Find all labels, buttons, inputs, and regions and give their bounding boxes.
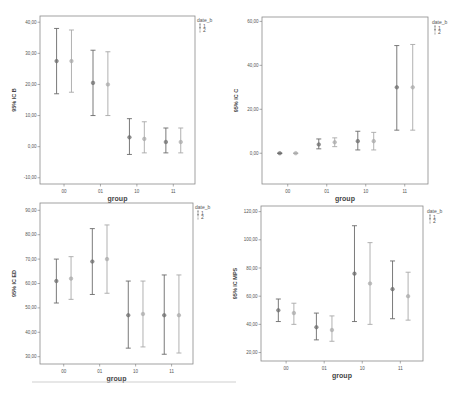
error-bar-series-2-00 xyxy=(69,257,74,300)
chart-panel-2: 0,0020,0040,0060,0000011011group95% IC C… xyxy=(233,17,448,203)
mean-point xyxy=(395,86,399,90)
error-bar-series-1-00 xyxy=(54,28,59,93)
error-bar-series-2-00 xyxy=(291,303,296,324)
mean-point xyxy=(278,151,282,155)
x-tick-label: 10 xyxy=(133,369,139,374)
error-bar-series-1-10 xyxy=(127,119,132,155)
chart-panel-4: 20,0040,0060,0080,00100,00120,0000011011… xyxy=(232,206,443,380)
y-axis-label: 95% IC MPS xyxy=(232,267,238,299)
y-tick-label: 0,00 xyxy=(250,151,259,156)
plot-frame xyxy=(40,16,195,184)
mean-point xyxy=(55,279,59,283)
error-bar-series-2-10 xyxy=(140,281,145,347)
error-bar-series-1-00 xyxy=(276,299,281,322)
error-bar-series-2-00 xyxy=(293,151,298,155)
mean-point xyxy=(333,140,337,144)
legend: date_b12 xyxy=(197,17,213,33)
y-tick-label: 20,00 xyxy=(25,82,37,87)
y-tick-label: 40,00 xyxy=(25,20,37,25)
error-bar-series-1-00 xyxy=(277,151,282,155)
x-axis-label: group xyxy=(335,195,355,203)
x-tick-label: 11 xyxy=(171,189,176,194)
mean-point xyxy=(162,313,166,317)
y-tick-label: 100,00 xyxy=(244,237,258,242)
chart-grid: -10,000,0010,0020,0030,0040,0000011011gr… xyxy=(0,0,461,396)
y-tick-label: 20,00 xyxy=(246,350,258,355)
mean-point xyxy=(105,257,109,261)
mean-point xyxy=(315,325,319,329)
x-tick-label: 01 xyxy=(98,189,104,194)
legend-entry-label: 2 xyxy=(438,29,441,35)
mean-point xyxy=(91,81,95,85)
mean-point xyxy=(294,151,298,155)
mean-point xyxy=(70,59,74,63)
error-bar-series-1-11 xyxy=(390,261,395,319)
chart-panel-1: -10,000,0010,0020,0030,0040,0000011011gr… xyxy=(11,16,213,203)
x-tick-label: 01 xyxy=(97,369,103,374)
error-bar-series-1-01 xyxy=(90,229,95,295)
mean-point xyxy=(406,294,410,298)
y-tick-label: 50,00 xyxy=(25,305,37,310)
x-tick-label: 00 xyxy=(61,369,67,374)
plot-frame xyxy=(262,17,428,184)
mean-point xyxy=(141,312,145,316)
mean-point xyxy=(69,277,73,281)
error-bar-series-2-10 xyxy=(368,243,373,325)
x-tick-label: 00 xyxy=(284,366,290,371)
error-bar-series-2-11 xyxy=(410,44,415,130)
error-bar-series-1-11 xyxy=(394,46,399,131)
y-tick-label: 40,00 xyxy=(247,63,259,68)
x-tick-label: 11 xyxy=(398,366,403,371)
y-tick-label: 30,00 xyxy=(25,354,37,359)
x-tick-label: 10 xyxy=(360,366,366,371)
error-bar-series-2-01 xyxy=(332,138,337,147)
y-tick-label: -10,00 xyxy=(24,175,37,180)
mean-point xyxy=(391,287,395,291)
chart-panel-3: 30,0040,0050,0060,0070,0080,0090,0000011… xyxy=(11,203,211,383)
y-tick-label: 10,00 xyxy=(25,113,37,118)
mean-point xyxy=(143,137,147,141)
error-bar-series-1-01 xyxy=(91,50,96,115)
error-bar-series-2-01 xyxy=(105,225,110,293)
mean-point xyxy=(179,140,183,144)
error-bar-series-1-10 xyxy=(126,281,131,348)
mean-point xyxy=(292,311,296,315)
mean-point xyxy=(126,313,130,317)
y-tick-label: 60,00 xyxy=(246,294,258,299)
error-bar-series-2-10 xyxy=(371,132,376,150)
y-tick-label: 40,00 xyxy=(25,330,37,335)
legend-entry-label: 2 xyxy=(203,27,206,33)
mean-point xyxy=(368,282,372,286)
error-bar-series-1-10 xyxy=(352,226,357,322)
y-axis-label: 95% IC ED xyxy=(11,270,17,297)
mean-point xyxy=(411,86,415,90)
x-tick-label: 11 xyxy=(169,369,174,374)
x-tick-label: 10 xyxy=(134,189,140,194)
error-bar-series-1-01 xyxy=(314,313,319,340)
mean-point xyxy=(317,143,321,147)
error-bar-series-1-10 xyxy=(355,131,360,150)
legend-entry-label: 2 xyxy=(433,218,436,224)
legend: date_b12 xyxy=(432,19,448,35)
x-tick-label: 11 xyxy=(402,189,407,194)
y-axis-label: 95% IC C xyxy=(233,89,239,113)
mean-point xyxy=(330,328,334,332)
mean-point xyxy=(372,139,376,143)
x-tick-label: 01 xyxy=(322,366,328,371)
y-tick-label: 60,00 xyxy=(247,19,259,24)
legend-entry-label: 2 xyxy=(201,214,204,220)
plot-frame xyxy=(40,203,193,364)
error-bar-series-1-11 xyxy=(162,275,167,354)
y-tick-label: 120,00 xyxy=(244,209,258,214)
y-tick-label: 60,00 xyxy=(25,281,37,286)
plot-frame xyxy=(261,206,423,361)
x-axis-label: group xyxy=(332,372,352,380)
y-tick-label: 30,00 xyxy=(25,51,37,56)
y-axis-label: 95% IC B xyxy=(11,88,17,112)
x-tick-label: 00 xyxy=(62,189,68,194)
error-bar-series-2-01 xyxy=(105,52,110,116)
mean-point xyxy=(164,140,168,144)
y-tick-label: 90,00 xyxy=(25,208,37,213)
error-bar-series-2-00 xyxy=(69,30,74,92)
y-tick-label: 80,00 xyxy=(25,232,37,237)
